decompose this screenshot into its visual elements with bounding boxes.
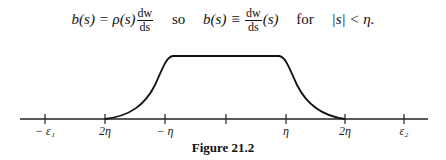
bump-function-plot (0, 0, 446, 160)
tick-label-eta: η (283, 124, 289, 139)
figure-caption: Figure 21.2 (0, 140, 446, 156)
tick-label-2eta-right: 2η (339, 124, 351, 139)
bump-curve (105, 56, 345, 119)
tick-label-eps2: ε₂ (400, 124, 409, 139)
tick-label-neg-eta: − η (156, 124, 173, 139)
tick-label-2eta-left: 2η (99, 124, 111, 139)
tick-label-neg-eps1: − ε₁ (35, 124, 55, 139)
